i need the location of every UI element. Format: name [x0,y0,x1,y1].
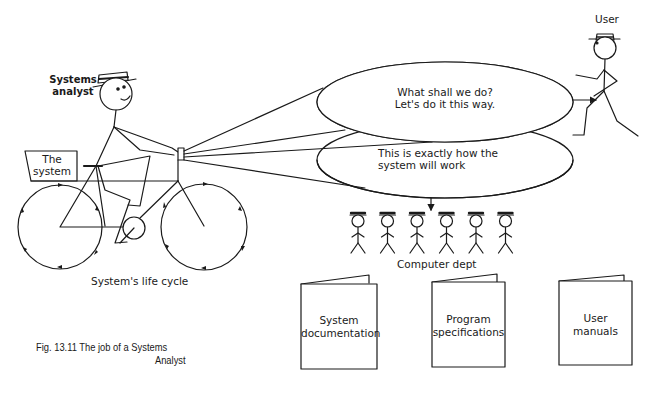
doc-line1: User [559,312,632,325]
computer-dept-people [350,213,514,253]
computer-dept-person [350,213,366,253]
bubble-top-line1: What shall we do? [370,86,520,98]
computer-dept-person [409,213,425,253]
computer-dept-person [380,213,396,253]
doc-text-user-manuals: User manuals [559,312,632,338]
bubble-bottom-line2: system will work [378,159,528,171]
bubble-top-text: What shall we do? Let's do it this way. [370,86,520,110]
figure-caption: Fig. 13.11 The job of a Systems Analyst [36,341,198,367]
doc-text-system-documentation: System documentation [301,314,377,340]
computer-dept-label: Computer dept [397,258,476,270]
life-cycle-label: System's life cycle [91,275,188,287]
doc-text-program-specifications: Program specifications [430,313,507,339]
doc-line2: manuals [559,325,632,338]
doc-line1: System [301,314,377,327]
computer-dept-person [498,213,514,253]
the-system-label: The system [27,153,77,177]
systems-analyst-line2: analyst [48,86,98,98]
computer-dept-person [439,213,455,253]
doc-line2: specifications [430,326,507,339]
systems-analyst-label: Systems analyst [48,74,98,98]
bubble-top-line2: Let's do it this way. [370,98,520,110]
bubble-bottom-text: This is exactly how the system will work [378,147,528,171]
user-label: User [595,13,619,25]
the-system-line1: The [27,153,77,165]
bubble-bottom-line1: This is exactly how the [378,147,528,159]
caption-line2: Analyst [36,354,198,367]
user-figure [573,34,638,136]
systems-analyst-line1: Systems [48,74,98,86]
computer-dept-person [468,213,484,253]
caption-line1: Fig. 13.11 The job of a Systems [36,341,198,354]
front-wheel [161,184,247,270]
doc-line1: Program [430,313,507,326]
doc-line2: documentation [301,327,377,340]
the-system-line2: system [27,165,77,177]
